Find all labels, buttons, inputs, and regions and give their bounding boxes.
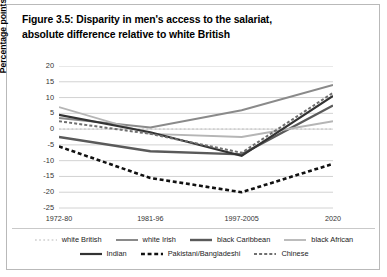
- legend-swatch-indian: [79, 250, 103, 258]
- legend-row-primary: white Britishwhite Irishblack Caribbeanb…: [12, 235, 375, 244]
- legend-swatch-black-african: [283, 236, 307, 244]
- x-tick-2: 1997-2005: [212, 214, 272, 223]
- legend-swatch-pakistani-bangladeshi: [140, 250, 164, 258]
- figure-title: Figure 3.5: Disparity in men's access to…: [22, 12, 352, 42]
- legend-label-black-african: black African: [311, 235, 353, 244]
- figure-title-line-1: Figure 3.5: Disparity in men's access to…: [22, 12, 352, 27]
- legend-label-black-caribbean: black Caribbean: [217, 235, 270, 244]
- y-tick-0: 20: [28, 61, 54, 70]
- legend-swatch-white-british: [34, 236, 58, 244]
- y-tick-2: 10: [28, 93, 54, 102]
- x-tick-0: 1972-80: [29, 214, 89, 223]
- chart-legend: white Britishwhite Irishblack Caribbeanb…: [12, 228, 375, 263]
- y-axis-label: Percentage points: [0, 0, 8, 96]
- x-tick-3: 2020: [303, 214, 363, 223]
- y-tick-3: 5: [28, 108, 54, 117]
- y-tick-6: -10: [28, 156, 54, 165]
- series-line-white-irish: [59, 85, 333, 128]
- legend-item-black-caribbean: black Caribbean: [189, 235, 270, 244]
- legend-swatch-chinese: [253, 250, 277, 258]
- y-tick-1: 15: [28, 77, 54, 86]
- legend-item-white-british: white British: [34, 235, 102, 244]
- legend-item-black-african: black African: [283, 235, 353, 244]
- legend-label-white-british: white British: [62, 235, 102, 244]
- y-tick-4: 0: [28, 124, 54, 133]
- figure-title-line-2: absolute difference relative to white Br…: [22, 27, 352, 42]
- figure-container: Figure 3.5: Disparity in men's access to…: [0, 0, 387, 277]
- legend-item-chinese: Chinese: [253, 249, 308, 258]
- legend-item-pakistani-bangladeshi: Pakistani/Bangladeshi: [140, 249, 241, 258]
- legend-label-chinese: Chinese: [281, 249, 308, 258]
- legend-label-pakistani-bangladeshi: Pakistani/Bangladeshi: [168, 249, 241, 258]
- y-tick-5: -5: [28, 140, 54, 149]
- legend-label-indian: Indian: [107, 249, 127, 258]
- x-tick-1: 1981-96: [120, 214, 180, 223]
- y-tick-7: -15: [28, 171, 54, 180]
- legend-label-white-irish: white Irish: [143, 235, 176, 244]
- legend-item-indian: Indian: [79, 249, 127, 258]
- legend-swatch-black-caribbean: [189, 236, 213, 244]
- plot-area: [59, 66, 333, 208]
- legend-swatch-white-irish: [115, 236, 139, 244]
- legend-row-secondary: IndianPakistani/BangladeshiChinese: [12, 249, 375, 258]
- legend-item-white-irish: white Irish: [115, 235, 176, 244]
- series-line-black-caribbean: [59, 105, 333, 154]
- y-tick-9: -25: [28, 203, 54, 212]
- y-tick-8: -20: [28, 187, 54, 196]
